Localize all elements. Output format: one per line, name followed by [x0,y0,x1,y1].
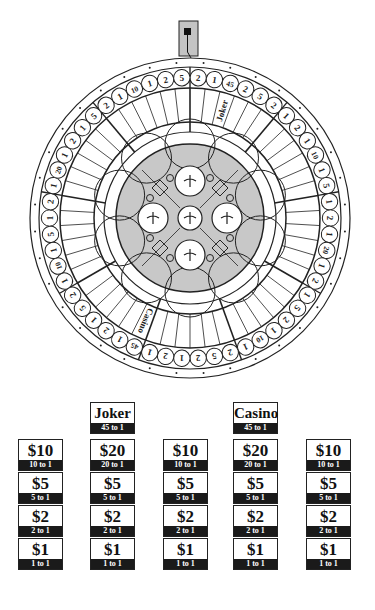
bet-amount: $1 [91,539,134,559]
bet-2-col4[interactable]: $22 to 1 [233,505,278,537]
bet-odds: 5 to 1 [234,493,277,503]
bet-2-col2[interactable]: $22 to 1 [90,505,135,537]
bet-amount: $20 [91,440,134,460]
bet-odds: 20 to 1 [234,460,277,470]
bet-20-col4[interactable]: $2020 to 1 [233,439,278,471]
bet-amount: $5 [91,473,134,493]
bet-amount: Joker [91,403,134,423]
bet-amount: $2 [19,506,62,526]
bet-1-col5[interactable]: $11 to 1 [306,538,351,570]
bet-odds: 10 to 1 [164,460,207,470]
bet-5-col2[interactable]: $55 to 1 [90,472,135,504]
bet-amount: $5 [164,473,207,493]
bet-odds: 1 to 1 [234,559,277,569]
bet-5-col5[interactable]: $55 to 1 [306,472,351,504]
bet-amount: $10 [164,440,207,460]
bet-amount: $1 [307,539,350,559]
bet-odds: 1 to 1 [164,559,207,569]
bet-1-col1[interactable]: $11 to 1 [18,538,63,570]
bet-5-col4[interactable]: $55 to 1 [233,472,278,504]
bet-amount: $20 [234,440,277,460]
bet-5-col1[interactable]: $55 to 1 [18,472,63,504]
bet-20-col2[interactable]: $2020 to 1 [90,439,135,471]
bet-amount: $5 [307,473,350,493]
bet-amount: $10 [19,440,62,460]
bet-odds: 2 to 1 [19,526,62,536]
bet-joker[interactable]: Joker 45 to 1 [90,402,135,434]
bet-1-col2[interactable]: $11 to 1 [90,538,135,570]
bet-odds: 10 to 1 [307,460,350,470]
bet-10-col3[interactable]: $1010 to 1 [163,439,208,471]
bet-amount: $1 [19,539,62,559]
bet-odds: 45 to 1 [234,423,277,433]
bet-amount: Casino [234,403,277,423]
bet-odds: 20 to 1 [91,460,134,470]
bet-1-col4[interactable]: $11 to 1 [233,538,278,570]
bet-amount: $5 [19,473,62,493]
bet-odds: 10 to 1 [19,460,62,470]
bet-amount: $1 [164,539,207,559]
bet-amount: $2 [164,506,207,526]
bet-5-col3[interactable]: $55 to 1 [163,472,208,504]
bet-10-col5[interactable]: $1010 to 1 [306,439,351,471]
bet-odds: 1 to 1 [19,559,62,569]
bet-amount: $2 [91,506,134,526]
bet-odds: 1 to 1 [91,559,134,569]
bet-amount: $5 [234,473,277,493]
bet-amount: $2 [234,506,277,526]
betting-layout: Joker 45 to 1 Casino 45 to 1 $1010 to 1$… [0,0,375,610]
bet-odds: 5 to 1 [164,493,207,503]
bet-odds: 5 to 1 [91,493,134,503]
bet-1-col3[interactable]: $11 to 1 [163,538,208,570]
bet-odds: 2 to 1 [164,526,207,536]
bet-2-col3[interactable]: $22 to 1 [163,505,208,537]
bet-odds: 2 to 1 [234,526,277,536]
bet-odds: 2 to 1 [307,526,350,536]
bet-2-col5[interactable]: $22 to 1 [306,505,351,537]
bet-odds: 1 to 1 [307,559,350,569]
bet-10-col1[interactable]: $1010 to 1 [18,439,63,471]
bet-odds: 2 to 1 [91,526,134,536]
bet-2-col1[interactable]: $22 to 1 [18,505,63,537]
bet-amount: $10 [307,440,350,460]
bet-odds: 5 to 1 [19,493,62,503]
bet-odds: 5 to 1 [307,493,350,503]
bet-amount: $1 [234,539,277,559]
bet-casino[interactable]: Casino 45 to 1 [233,402,278,434]
bet-amount: $2 [307,506,350,526]
bet-odds: 45 to 1 [91,423,134,433]
